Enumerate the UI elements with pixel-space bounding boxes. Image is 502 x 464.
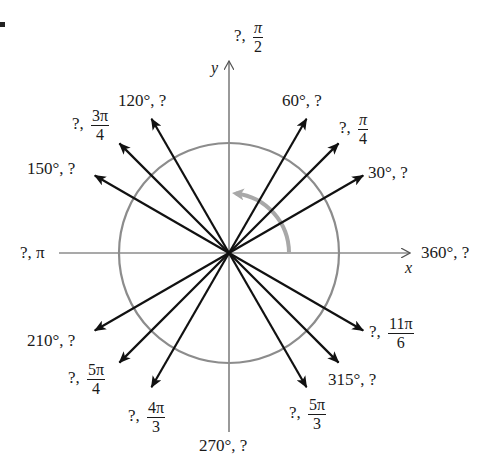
label-360: 360°, ? [421,244,469,261]
label-45: ?, π4 [339,112,368,147]
label-330: ?, 11π6 [369,316,414,351]
label-180: ?, π [20,244,45,261]
label-225: ?, 5π4 [68,362,105,397]
label-30: 30°, ? [368,164,408,181]
label-135: ?, 3π4 [72,108,109,143]
x-axis-label: x [405,260,412,276]
label-90: ?, π2 [234,20,263,55]
label-150: 150°, ? [27,160,75,177]
label-240: ?, 4π3 [128,400,165,435]
label-60: 60°, ? [282,92,322,109]
label-315: 315°, ? [328,371,376,388]
y-axis-label: y [211,60,218,76]
label-300: ?, 5π3 [289,397,326,432]
label-270: 270°, ? [199,437,247,454]
label-120: 120°, ? [118,92,166,109]
label-210: 210°, ? [27,332,75,349]
